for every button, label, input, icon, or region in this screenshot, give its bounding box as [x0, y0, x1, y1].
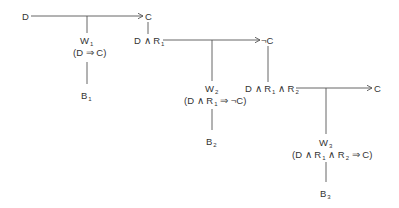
argument-diagram: D C W1 (D ⇒ C) B1 D ∧ R1 ¬C W2 (D ∧ R1 ⇒…	[0, 0, 399, 208]
claim-node-c3: C	[374, 83, 381, 94]
backing-b3: B3	[320, 188, 331, 200]
warrant-w2: W2	[205, 83, 219, 95]
backing-b2: B2	[206, 136, 217, 148]
warrant-w1: W1	[80, 35, 94, 47]
claim-node-c1: C	[145, 11, 152, 22]
warrant-w3: W3	[319, 137, 333, 149]
warrant-rule-1: (D ⇒ C)	[73, 47, 106, 58]
data-node-d-r1-r2: D ∧ R1 ∧ R2	[245, 83, 299, 95]
warrant-rule-2: (D ∧ R1 ⇒ ¬C)	[184, 95, 246, 107]
claim-node-not-c: ¬C	[261, 35, 274, 46]
data-node-d: D	[22, 11, 29, 22]
data-node-d-r1: D ∧ R1	[134, 35, 165, 47]
warrant-rule-3: (D ∧ R1 ∧ R2 ⇒ C)	[292, 149, 372, 161]
backing-b1: B1	[81, 90, 92, 102]
